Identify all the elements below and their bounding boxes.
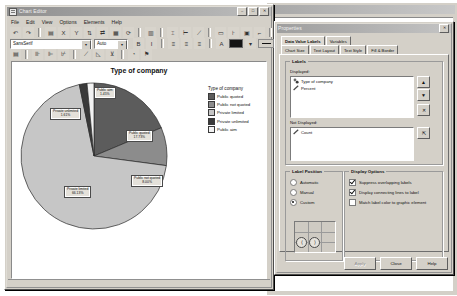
pie-chart-icon[interactable]: ◔ bbox=[128, 49, 139, 60]
chart-editor-toolbar-main[interactable]: ↶↷▤XY⇅⇄▦⟳▥⌶⊢⟋▭⊦▣⌐▩▨⫿⁞⁞▶⏸ bbox=[8, 27, 270, 38]
tab-text-style[interactable]: Text Style bbox=[340, 45, 366, 54]
chart-editor-window-controls[interactable]: – □ ✕ bbox=[237, 7, 270, 16]
list-item[interactable]: Type of company bbox=[291, 77, 413, 84]
menu-file[interactable]: File bbox=[11, 19, 19, 25]
menu-view[interactable]: View bbox=[42, 19, 53, 25]
legend-item[interactable]: Public quoted bbox=[208, 93, 267, 100]
remove-label-button[interactable]: ✕ bbox=[417, 104, 430, 116]
chart-editor-titlebar[interactable]: Chart Editor – □ ✕ bbox=[7, 7, 271, 16]
align-left-button[interactable]: ≡ bbox=[168, 38, 179, 49]
label-position-grid[interactable]: ⟨ ⟩ bbox=[294, 221, 336, 253]
maximize-button[interactable]: □ bbox=[248, 7, 258, 16]
grid-lines-icon[interactable]: ▥ bbox=[145, 27, 156, 38]
text-format-button-group[interactable]: BI≡≡≡A bbox=[133, 38, 227, 49]
insert-fit-line-icon[interactable]: ⟋ bbox=[193, 27, 204, 38]
text-color-button[interactable]: A bbox=[216, 38, 227, 49]
tab-variables[interactable]: Variables bbox=[326, 36, 351, 45]
redo-icon[interactable]: ↷ bbox=[23, 27, 34, 38]
legend-item[interactable]: Private unlimited bbox=[208, 118, 267, 125]
align-right-button[interactable]: ≡ bbox=[194, 38, 205, 49]
properties-dialog[interactable]: Properties ✕ Data Value LabelsVariables … bbox=[274, 21, 454, 275]
chart-title[interactable]: Type of company bbox=[12, 67, 266, 74]
add-distribution-curve-icon[interactable]: ▣ bbox=[241, 27, 252, 38]
menu-elements[interactable]: Elements bbox=[84, 19, 105, 25]
italic-button[interactable]: I bbox=[146, 38, 157, 49]
drop-line-icon[interactable]: ⊻ bbox=[106, 49, 117, 60]
position-handle-right[interactable]: ⟩ bbox=[309, 237, 320, 248]
checkbox-icon[interactable] bbox=[349, 179, 356, 186]
insert-text-box-icon[interactable]: ▭ bbox=[215, 27, 226, 38]
display-options-checkboxes[interactable]: Suppress overlapping labelsDisplay conne… bbox=[349, 179, 440, 209]
tab-chart-size[interactable]: Chart Size bbox=[281, 45, 309, 54]
radio-manual[interactable]: Manual bbox=[290, 189, 319, 196]
swap-axes-icon[interactable]: ⇄ bbox=[97, 27, 108, 38]
font-family-combo[interactable]: SansSerif ▾ bbox=[10, 39, 92, 49]
checkbox-icon[interactable] bbox=[349, 199, 356, 206]
data-label-private-limited[interactable]: Private limited 66.13% bbox=[64, 186, 91, 198]
not-displayed-labels-list[interactable]: Count bbox=[290, 127, 414, 161]
stacked-bar-icon[interactable]: ⊫ bbox=[45, 49, 56, 60]
close-button[interactable]: ✕ bbox=[259, 7, 269, 16]
checkbox-display-connecting-lines-to-label[interactable]: Display connecting lines to label bbox=[349, 189, 440, 196]
bold-button[interactable]: B bbox=[133, 38, 144, 49]
add-markers-icon[interactable]: ⌐ bbox=[254, 27, 265, 38]
pie-chart[interactable]: Public aim 1.45% Private unlimited 1.61%… bbox=[18, 80, 170, 232]
checkbox-icon[interactable] bbox=[349, 189, 356, 196]
properties-titlebar[interactable]: Properties ✕ bbox=[277, 24, 451, 33]
move-down-button[interactable]: ▼ bbox=[417, 89, 430, 101]
chart-editor-toolbar-format[interactable]: SansSerif ▾ Auto ▾ BI≡≡≡A ▾ ▾ bbox=[8, 38, 270, 49]
move-up-button[interactable]: ▲ bbox=[417, 76, 430, 88]
radio-button-icon[interactable] bbox=[290, 199, 297, 206]
properties-tab-row-1[interactable]: Data Value LabelsVariables bbox=[279, 36, 449, 45]
chevron-down-icon[interactable]: ▾ bbox=[245, 38, 256, 49]
spin-icon[interactable]: ⟳ bbox=[123, 27, 134, 38]
tab-data-value-labels[interactable]: Data Value Labels bbox=[281, 36, 325, 45]
close-icon[interactable]: ✕ bbox=[439, 24, 449, 33]
pie-slices[interactable] bbox=[18, 80, 170, 232]
y-axis-icon[interactable]: Y bbox=[71, 27, 82, 38]
chart-editor-toolbar-charttype[interactable]: ▤⊪⊫⊬⟋◺⊻◔⚑ bbox=[8, 49, 270, 59]
show-data-labels-icon[interactable]: ▤ bbox=[45, 27, 56, 38]
chart-type-icon[interactable]: ▦ bbox=[110, 27, 121, 38]
list-item[interactable]: Percent bbox=[291, 84, 413, 91]
legend-item[interactable]: Public not quoted bbox=[208, 101, 267, 108]
legend-item[interactable]: Private limited bbox=[208, 109, 267, 116]
align-center-button[interactable]: ≡ bbox=[181, 38, 192, 49]
data-label-public-not-quoted[interactable]: Public not quoted 8.00% bbox=[131, 175, 163, 187]
border-style-swatch[interactable] bbox=[258, 39, 274, 48]
list-item[interactable]: Count bbox=[291, 128, 413, 135]
help-button[interactable]: Help bbox=[416, 257, 448, 270]
label-position-options[interactable]: AutomaticManualCustom bbox=[290, 179, 319, 209]
data-label-private-unlimited[interactable]: Private unlimited 1.61% bbox=[50, 108, 81, 120]
chart-editor-window[interactable]: Chart Editor – □ ✕ FileEditViewOptionsEl… bbox=[4, 4, 274, 290]
menu-edit[interactable]: Edit bbox=[26, 19, 35, 25]
transpose-icon[interactable]: ⇅ bbox=[84, 27, 95, 38]
chart-canvas[interactable]: Type of company Public aim 1.45% Private… bbox=[11, 61, 267, 279]
area-chart-icon[interactable]: ◺ bbox=[93, 49, 104, 60]
legend-items[interactable]: Public quotedPublic not quotedPrivate li… bbox=[208, 93, 267, 133]
fill-color-swatch[interactable] bbox=[229, 39, 243, 48]
tab-fill-border[interactable]: Fill & Border bbox=[367, 45, 398, 54]
menu-help[interactable]: Help bbox=[112, 19, 122, 25]
chart-legend[interactable]: Type of company Public quotedPublic not … bbox=[208, 86, 267, 134]
checkbox-suppress-overlapping-labels[interactable]: Suppress overlapping labels bbox=[349, 179, 440, 186]
legend-item[interactable]: Public aim bbox=[208, 126, 267, 133]
displayed-labels-list[interactable]: Type of companyPercent bbox=[290, 76, 414, 118]
minimize-button[interactable]: – bbox=[237, 7, 247, 16]
bar-chart-icon[interactable]: ⊪ bbox=[32, 49, 43, 60]
edit-properties-icon[interactable]: ▤ bbox=[10, 49, 21, 60]
properties-window-controls[interactable]: ✕ bbox=[439, 24, 450, 33]
line-chart-icon[interactable]: ⟋ bbox=[80, 49, 91, 60]
checkbox-match-label-color-to-graphic-element[interactable]: Match label color to graphic element bbox=[349, 199, 440, 206]
close-button[interactable]: Close bbox=[380, 257, 412, 270]
radio-custom[interactable]: Custom bbox=[290, 199, 319, 206]
data-label-public-quoted[interactable]: Public quoted 17.73% bbox=[126, 130, 153, 142]
undo-icon[interactable]: ↶ bbox=[10, 27, 21, 38]
data-label-public-aim[interactable]: Public aim 1.45% bbox=[94, 87, 116, 99]
position-handle-left[interactable]: ⟨ bbox=[296, 237, 307, 248]
font-size-combo[interactable]: Auto ▾ bbox=[94, 39, 128, 49]
tab-text-layout[interactable]: Text Layout bbox=[310, 45, 339, 54]
add-interpolation-line-icon[interactable]: ⊦ bbox=[228, 27, 239, 38]
x-axis-icon[interactable]: X bbox=[58, 27, 69, 38]
properties-tabstrip[interactable]: Data Value LabelsVariables Chart SizeTex… bbox=[279, 36, 449, 54]
